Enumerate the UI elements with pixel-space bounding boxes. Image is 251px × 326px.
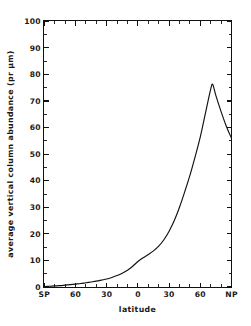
line-chart-plot: 0102030405060708090100 SP603003060NP lat…	[0, 0, 251, 326]
y-axis-title: average vertical column abundance (pr μm…	[6, 50, 15, 257]
plot-frame	[44, 21, 232, 288]
y-tick-label: 90	[30, 44, 41, 53]
x-tick-label: NP	[225, 290, 238, 299]
x-tick-label: 0	[135, 290, 140, 299]
x-tick-label: 60	[70, 290, 81, 299]
x-tick-label: SP	[39, 290, 51, 299]
y-tick-label: 70	[30, 97, 41, 106]
y-axis-ticks	[44, 21, 231, 287]
x-tick-label: 30	[101, 290, 112, 299]
y-tick-label: 10	[30, 256, 41, 265]
y-tick-label: 40	[30, 176, 41, 185]
y-tick-label: 20	[30, 230, 41, 239]
y-axis-tick-labels: 0102030405060708090100	[24, 17, 40, 292]
y-tick-label: 80	[30, 70, 41, 79]
y-tick-label: 100	[24, 17, 40, 26]
y-tick-label: 60	[30, 123, 41, 132]
x-tick-label: 60	[195, 290, 206, 299]
y-tick-label: 50	[30, 150, 41, 159]
data-series-curve	[44, 84, 231, 286]
y-tick-label: 30	[30, 203, 41, 212]
chart-figure: 0102030405060708090100 SP603003060NP lat…	[0, 0, 251, 326]
x-tick-label: 30	[164, 290, 175, 299]
x-axis-tick-labels: SP603003060NP	[39, 290, 238, 299]
x-axis-ticks	[44, 21, 231, 287]
x-axis-title: latitude	[119, 305, 156, 314]
